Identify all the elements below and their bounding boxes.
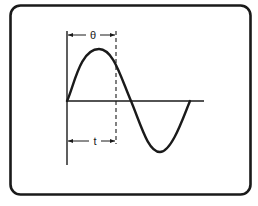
t-dimension: t <box>68 135 115 147</box>
sine-wave-diagram: θ t <box>0 0 258 206</box>
t-label: t <box>93 135 96 147</box>
theta-label: θ <box>90 29 96 41</box>
theta-dimension: θ <box>68 29 115 41</box>
